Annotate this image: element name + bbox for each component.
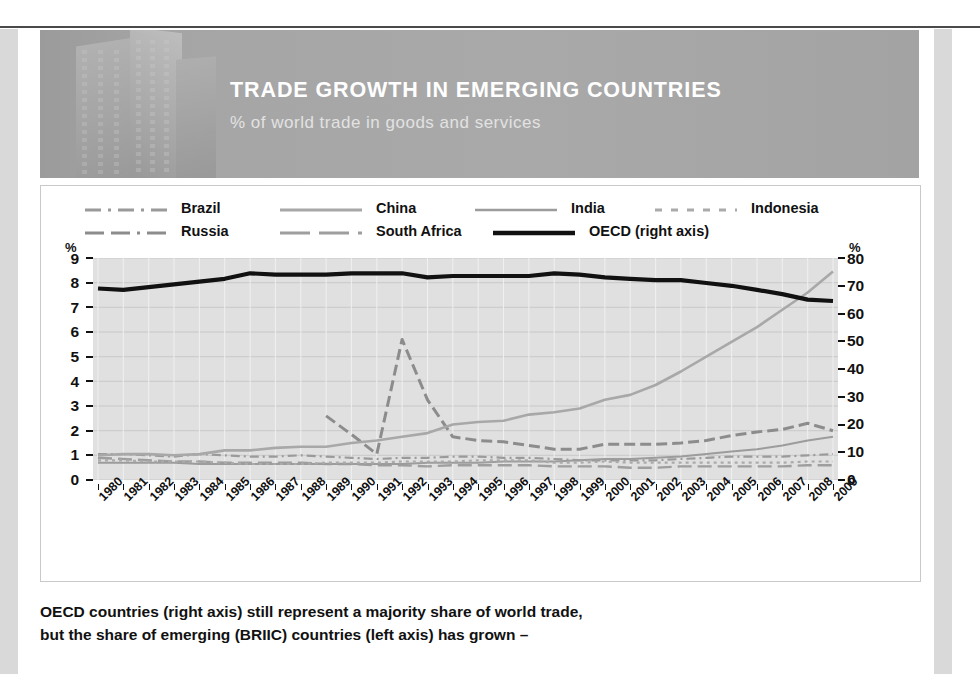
x-tick: [98, 484, 99, 490]
left-tick-5: 5: [57, 348, 79, 366]
right-tick-10: 10: [847, 443, 877, 461]
legend-label-china: China: [376, 200, 416, 216]
caption-line-1: OECD countries (right axis) still repres…: [40, 600, 919, 623]
series-line-china: [98, 272, 833, 456]
right-axis-tick: [838, 451, 845, 453]
chart-legend: Brazil China India Indonesia Russia Sout…: [63, 198, 903, 246]
right-tick-70: 70: [847, 277, 877, 295]
x-tick: [174, 484, 175, 490]
x-tick: [580, 484, 581, 490]
left-tick-7: 7: [57, 299, 79, 317]
plot-canvas: [93, 258, 838, 480]
left-tick-4: 4: [57, 373, 79, 391]
right-axis-tick: [838, 424, 845, 426]
top-rule: [0, 26, 980, 28]
left-axis-tick: [86, 430, 93, 432]
chart-card: Brazil China India Indonesia Russia Sout…: [40, 185, 921, 582]
legend-label-india: India: [571, 200, 605, 216]
chart-caption: OECD countries (right axis) still repres…: [40, 600, 919, 646]
left-axis-tick: [86, 454, 93, 456]
right-tick-20: 20: [847, 415, 877, 433]
legend-label-south-africa: South Africa: [376, 223, 462, 239]
left-axis-tick: [86, 380, 93, 382]
x-tick: [808, 484, 809, 490]
x-tick: [301, 484, 302, 490]
legend-label-brazil: Brazil: [181, 200, 221, 216]
right-tick-60: 60: [847, 305, 877, 323]
left-axis-tick: [86, 282, 93, 284]
left-tick-9: 9: [57, 250, 79, 268]
x-tick: [757, 484, 758, 490]
legend-label-russia: Russia: [181, 223, 229, 239]
left-axis-tick: [86, 306, 93, 308]
left-tick-1: 1: [57, 446, 79, 464]
page-root: TRADE GROWTH IN EMERGING COUNTRIES % of …: [0, 0, 980, 674]
x-tick: [377, 484, 378, 490]
chart-svg: [93, 258, 838, 480]
x-tick: [529, 484, 530, 490]
caption-line-2: but the share of emerging (BRIIC) countr…: [40, 623, 919, 646]
left-tick-6: 6: [57, 323, 79, 341]
legend-label-oecd: OECD (right axis): [589, 223, 709, 239]
right-axis-tick: [838, 257, 845, 259]
legend-swatch-oecd: [491, 227, 577, 239]
x-tick: [225, 484, 226, 490]
legend-label-indonesia: Indonesia: [751, 200, 819, 216]
x-tick: [833, 484, 834, 490]
series-line-india: [98, 437, 833, 464]
left-axis-tick: [86, 257, 93, 259]
right-axis-tick: [838, 340, 845, 342]
x-tick: [149, 484, 150, 490]
x-tick: [681, 484, 682, 490]
x-tick: [428, 484, 429, 490]
left-axis-tick: [86, 331, 93, 333]
legend-swatch-indonesia: [653, 204, 739, 216]
series-line-oecd-right-axis: [98, 273, 833, 301]
x-tick: [453, 484, 454, 490]
left-tick-0: 0: [57, 471, 79, 489]
left-axis-tick: [86, 356, 93, 358]
x-tick: [656, 484, 657, 490]
left-axis-tick: [86, 405, 93, 407]
right-axis-tick: [838, 368, 845, 370]
legend-swatch-brazil: [83, 204, 169, 216]
left-tick-3: 3: [57, 397, 79, 415]
right-axis-tick: [838, 285, 845, 287]
page-title: TRADE GROWTH IN EMERGING COUNTRIES: [230, 78, 722, 103]
left-axis-tick: [86, 479, 93, 481]
right-axis-tick: [838, 313, 845, 315]
legend-swatch-india: [473, 204, 559, 216]
building-photo: [56, 30, 226, 178]
legend-swatch-russia: [83, 227, 169, 239]
right-tick-80: 80: [847, 250, 877, 268]
x-axis-labels: 1980198119821983198419851986198719881989…: [93, 490, 853, 550]
plot-area: % % 9 8 7 6 5 4 3 2 1 0 80 70 60 50 40 3…: [41, 248, 920, 516]
legend-swatch-south-africa: [278, 227, 364, 239]
banner: TRADE GROWTH IN EMERGING COUNTRIES % of …: [40, 30, 919, 178]
x-tick: [605, 484, 606, 490]
right-tick-40: 40: [847, 360, 877, 378]
left-tick-2: 2: [57, 422, 79, 440]
x-tick: [732, 484, 733, 490]
x-tick: [504, 484, 505, 490]
left-tick-8: 8: [57, 274, 79, 292]
legend-swatch-china: [278, 204, 364, 216]
page-subtitle: % of world trade in goods and services: [230, 113, 541, 133]
right-axis-tick: [838, 396, 845, 398]
right-tick-30: 30: [847, 388, 877, 406]
right-tick-50: 50: [847, 332, 877, 350]
